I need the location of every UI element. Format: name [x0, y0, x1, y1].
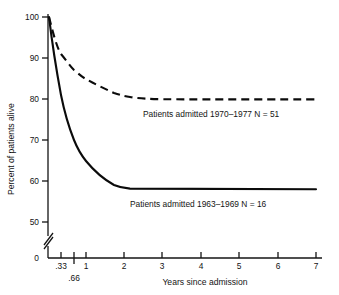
x-tick-label-066: .66 [68, 273, 80, 283]
x-tick-label-6: 6 [276, 261, 281, 271]
y-tick-label-80: 80 [30, 94, 40, 104]
y-tick-label-70: 70 [30, 135, 40, 145]
series-label-1970-1977: Patients admitted 1970–1977 N = 51 [143, 109, 280, 119]
y-tick-label-60: 60 [30, 176, 40, 186]
y-tick-label-50: 50 [30, 217, 40, 227]
y-tick-label-90: 90 [30, 53, 40, 63]
x-tick-label-2: 2 [122, 261, 127, 271]
chart-canvas: 100 90 80 70 60 50 0 Percent of patients… [0, 0, 339, 295]
x-tick-label-3: 3 [160, 261, 165, 271]
x-tick-label-5: 5 [237, 261, 242, 271]
survival-curve-figure: 100 90 80 70 60 50 0 Percent of patients… [0, 0, 339, 295]
chart-background [0, 0, 339, 295]
y-tick-label-0: 0 [34, 253, 39, 263]
x-tick-label-1: 1 [84, 261, 89, 271]
x-tick-label-7: 7 [314, 261, 319, 271]
y-axis-title: Percent of patients alive [6, 103, 16, 195]
x-tick-label-033: .33 [55, 261, 67, 271]
y-tick-label-100: 100 [25, 12, 39, 22]
series-label-1963-1969: Patients admitted 1963–1969 N = 16 [130, 199, 267, 209]
x-tick-label-4: 4 [199, 261, 204, 271]
x-axis-title: Years since admission [162, 277, 247, 287]
